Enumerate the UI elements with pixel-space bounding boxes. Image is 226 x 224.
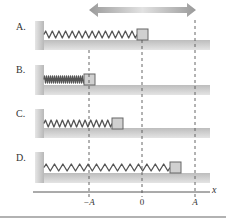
- spring-row-d: [35, 152, 210, 183]
- spring-icon: [44, 76, 84, 83]
- spring-row-b: [35, 65, 210, 95]
- wall: [35, 65, 44, 95]
- row-label-c: C.: [16, 108, 25, 119]
- spring-icon: [44, 120, 112, 127]
- row-label-a: A.: [16, 21, 26, 32]
- wall: [35, 152, 44, 183]
- spring-row-c: [35, 109, 210, 138]
- tick-label-a: A: [192, 197, 198, 207]
- spring-icon: [44, 31, 137, 38]
- spring-mass-diagram: A. B. C. D. −A 0 A x: [0, 0, 226, 224]
- diagram-canvas: [0, 0, 226, 224]
- oscillation-arrow-icon: [89, 3, 196, 17]
- floor: [35, 40, 210, 50]
- tick-label-zero: 0: [140, 197, 145, 207]
- mass-block: [170, 162, 181, 173]
- spring-rows: [35, 21, 210, 183]
- spring-icon: [44, 164, 170, 171]
- row-label-b: B.: [16, 64, 25, 75]
- floor: [35, 85, 210, 95]
- wall: [35, 109, 44, 138]
- floor: [35, 173, 210, 183]
- mass-block: [137, 29, 148, 40]
- row-label-d: D.: [16, 152, 26, 163]
- mass-block: [84, 74, 95, 85]
- wall: [35, 21, 44, 50]
- axis-label-x: x: [212, 184, 216, 195]
- mass-block: [112, 118, 123, 129]
- tick-label-neg-a: −A: [83, 197, 95, 207]
- spring-row-a: [35, 21, 210, 50]
